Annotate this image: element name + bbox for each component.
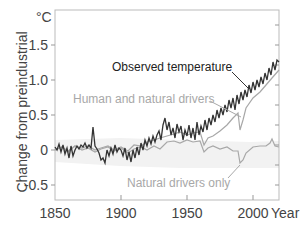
temperature-chart: °C 1.5 1.0 0.5 0 -0.5 Change from preind… [0,0,307,227]
y-tick-label: 1.5 [29,37,49,53]
annotation-observed-temperature: Observed temperature [112,60,232,74]
y-tick-label: 1.0 [29,72,49,88]
annotation-natural-drivers-only: Natural drivers only [127,176,230,190]
y-tick-label: 0 [40,142,48,158]
x-tick-label: 2000 [237,205,268,221]
y-tick-label: 0.5 [29,107,49,123]
x-tick-label: 1850 [39,205,70,221]
x-tick-label: 1950 [171,205,202,221]
x-axis-title: Year [271,205,300,221]
x-tick-label: 1900 [105,205,136,221]
x-axis [121,195,253,200]
annotation-human-and-natural-drivers: Human and natural drivers [73,92,214,106]
y-unit-label: °C [36,9,52,25]
annotation-leader-observed [232,72,248,88]
y-axis-title: Change from preindustrial [14,31,30,192]
series-human-and-natural-drivers [55,70,279,151]
